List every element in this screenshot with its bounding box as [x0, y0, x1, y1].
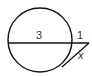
tangent-line: [62, 43, 89, 67]
label-external-segment: 1: [77, 29, 83, 41]
label-tangent-segment: x: [77, 49, 84, 61]
diagram-canvas: 3 1 x: [0, 0, 92, 76]
label-internal-segment: 3: [36, 29, 42, 41]
